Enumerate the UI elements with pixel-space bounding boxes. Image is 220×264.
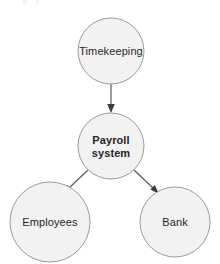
node-payroll-system-circle[interactable] [78, 113, 144, 179]
diagram-canvas: g y Timekeeping Payroll system Employees… [0, 0, 220, 264]
node-employees-circle[interactable] [10, 182, 90, 262]
node-timekeeping-circle[interactable] [78, 18, 144, 84]
edge-payroll-to-employees-line [69, 170, 88, 188]
edge-payroll-to-bank-line [134, 170, 153, 188]
diagram-graphics [0, 0, 220, 264]
edge-timekeeping-to-payroll [107, 84, 115, 113]
edge-payroll-to-bank [134, 170, 159, 194]
node-bank-circle[interactable] [140, 187, 210, 257]
edge-timekeeping-to-payroll-arrowhead [107, 104, 115, 113]
